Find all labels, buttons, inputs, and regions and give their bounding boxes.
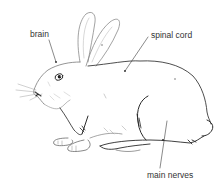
rabbit-ear-front — [86, 19, 120, 66]
rabbit-eye-glint — [60, 76, 61, 77]
main-nerves-pointer-dot — [162, 139, 164, 141]
rabbit-tail — [202, 120, 213, 136]
brain-pointer-dot — [55, 61, 57, 63]
rabbit-illustration — [0, 0, 222, 183]
rabbit-belly — [90, 133, 122, 138]
rabbit-front-paw-right — [68, 140, 90, 152]
rabbit-pupil — [58, 75, 62, 79]
label-brain: brain — [30, 30, 49, 39]
label-spinal-cord: spinal cord — [151, 31, 192, 40]
rabbit-head-fur — [48, 82, 70, 100]
rabbit-front-paw-left — [54, 138, 73, 146]
spinal-cord-leader-line — [125, 37, 148, 71]
main-nerves-leader-line — [160, 121, 167, 168]
rabbit-hind-foot — [100, 136, 204, 149]
ear-mark — [101, 44, 102, 45]
rabbit-chest — [60, 108, 82, 135]
rabbit-nervous-system-diagram: brain spinal cord main nerves — [0, 0, 222, 183]
rabbit-back-outline — [88, 61, 211, 124]
rabbit-ear-back — [78, 12, 95, 62]
rabbit-ear-back-inner — [83, 18, 89, 58]
body-dot — [174, 78, 175, 79]
rabbit-foot-lower — [116, 150, 140, 152]
rabbit-body-fur — [104, 94, 126, 134]
rabbit-head-outline — [34, 62, 80, 104]
rabbit-cheek — [44, 100, 70, 109]
label-main-nerves: main nerves — [147, 171, 193, 180]
spinal-cord-pointer-dot — [124, 70, 126, 72]
rabbit-foot-marks — [188, 140, 196, 144]
brain-leader-line — [49, 40, 56, 62]
